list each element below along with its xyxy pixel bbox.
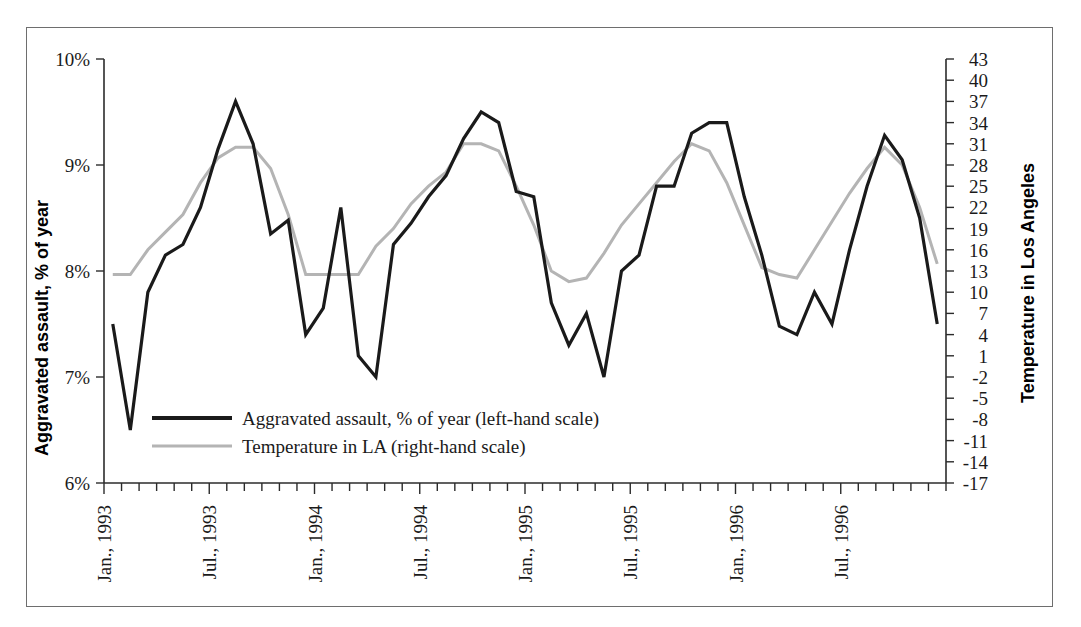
x-tick-label: Jan., 1994 [305, 505, 326, 583]
x-tick-labels: Jan., 1993Jul., 1993Jan., 1994Jul., 1994… [94, 505, 852, 583]
right-tick-label: -2 [972, 367, 988, 388]
x-tick-label: Jul., 1993 [199, 505, 220, 579]
x-tick-label: Jul., 1994 [410, 505, 431, 580]
right-tick-label: 19 [969, 219, 988, 240]
x-tick-label: Jul., 1995 [620, 505, 641, 579]
right-tick-label: 34 [969, 113, 989, 134]
right-axis-title: Temperature in Los Angeles [1018, 163, 1038, 403]
chart-legend: Aggravated assault, % of year (left-hand… [152, 408, 599, 458]
left-tick-label: 7% [65, 367, 91, 388]
right-tick-label: 13 [969, 261, 988, 282]
right-tick-label: -5 [972, 388, 988, 409]
right-tick-label: 10 [969, 282, 988, 303]
assault-line [113, 101, 937, 430]
right-tick-label: 22 [969, 197, 988, 218]
right-tick-label: 4 [979, 325, 989, 346]
left-tick-label: 6% [65, 473, 91, 494]
x-tick-label: Jul., 1996 [831, 505, 852, 579]
left-tick-label: 8% [65, 261, 91, 282]
chart-frame: 6%7%8%9%10% 434037343128252219161310741-… [26, 27, 1053, 607]
assault-temperature-line-chart: 6%7%8%9%10% 434037343128252219161310741-… [27, 28, 1051, 605]
left-tick-label: 9% [65, 155, 91, 176]
left-axis-title: Aggravated assault, % of year [32, 200, 52, 456]
temperature-line [113, 144, 937, 282]
right-tick-label: 28 [969, 155, 988, 176]
bottom-axis [104, 483, 946, 494]
right-tick-label: -8 [972, 409, 988, 430]
right-tick-label: -17 [963, 473, 988, 494]
right-tick-label: 1 [979, 346, 989, 367]
right-tick-label: 37 [969, 91, 988, 112]
right-tick-label: -11 [963, 431, 988, 452]
left-tick-label: 10% [55, 49, 90, 70]
right-tick-label: -14 [963, 452, 989, 473]
right-axis: 434037343128252219161310741-2-5-8-11-14-… [946, 49, 989, 494]
left-axis: 6%7%8%9%10% [55, 49, 104, 494]
right-tick-label: 40 [969, 70, 988, 91]
series-lines [113, 101, 937, 430]
figure-root: 6%7%8%9%10% 434037343128252219161310741-… [0, 0, 1081, 627]
right-tick-label: 16 [969, 240, 988, 261]
x-tick-label: Jan., 1996 [726, 505, 747, 583]
legend-label: Temperature in LA (right-hand scale) [242, 436, 526, 458]
x-tick-label: Jan., 1993 [94, 505, 115, 583]
right-tick-label: 25 [969, 176, 988, 197]
legend-label: Aggravated assault, % of year (left-hand… [242, 408, 599, 430]
x-tick-label: Jan., 1995 [515, 505, 536, 583]
right-tick-label: 43 [969, 49, 988, 70]
right-tick-label: 31 [969, 134, 988, 155]
right-tick-label: 7 [979, 303, 989, 324]
